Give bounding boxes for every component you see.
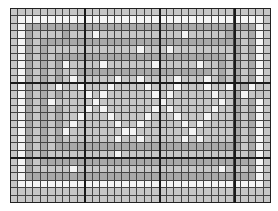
grid-cell <box>33 166 39 172</box>
grid-cell <box>70 99 76 105</box>
grid-cell <box>241 99 247 105</box>
grid-cell <box>85 39 91 45</box>
grid-cell <box>56 113 62 119</box>
grid-cell <box>174 91 180 97</box>
grid-cell <box>26 9 32 15</box>
grid-cell <box>48 143 54 149</box>
grid-cell <box>137 113 143 119</box>
grid-cell <box>85 61 91 67</box>
grid-cell <box>256 24 262 30</box>
grid-cell <box>33 188 39 194</box>
grid-cell <box>56 173 62 179</box>
grid-cell <box>204 196 210 202</box>
grid-cell <box>11 54 17 60</box>
grid-cell <box>33 46 39 52</box>
grid-cell <box>264 106 270 112</box>
grid-cell <box>85 84 91 90</box>
grid-cell <box>182 106 188 112</box>
grid-cell <box>56 188 62 194</box>
grid-cell <box>33 24 39 30</box>
grid-cell <box>174 39 180 45</box>
grid-cell <box>115 16 121 22</box>
grid-cell <box>226 121 232 127</box>
grid-cell <box>26 91 32 97</box>
grid-cell <box>122 166 128 172</box>
grid-cell <box>197 61 203 67</box>
grid-cell <box>26 39 32 45</box>
grid-cell <box>174 61 180 67</box>
grid-cell <box>249 31 255 37</box>
grid-cell <box>70 188 76 194</box>
grid-cell <box>70 46 76 52</box>
grid-cell <box>41 188 47 194</box>
grid-cell <box>145 16 151 22</box>
grid-cell <box>85 69 91 75</box>
grid-cell <box>11 61 17 67</box>
grid-cell <box>56 24 62 30</box>
grid-cell <box>189 91 195 97</box>
grid-cell <box>130 128 136 134</box>
grid-cell <box>115 54 121 60</box>
grid-cell <box>226 143 232 149</box>
grid-cell <box>122 113 128 119</box>
grid-cell <box>182 128 188 134</box>
grid-cell <box>152 69 158 75</box>
grid-cell <box>48 158 54 164</box>
grid-cell <box>108 24 114 30</box>
grid-cell <box>48 69 54 75</box>
grid-cell <box>189 9 195 15</box>
grid-cell <box>63 143 69 149</box>
grid-cell <box>189 188 195 194</box>
grid-cell <box>33 61 39 67</box>
grid-cell <box>130 136 136 142</box>
grid-cell <box>85 188 91 194</box>
grid-cell <box>167 69 173 75</box>
grid-cell <box>100 31 106 37</box>
grid-cell <box>122 196 128 202</box>
grid-cell <box>11 196 17 202</box>
grid-cell <box>115 113 121 119</box>
grid-cell <box>108 39 114 45</box>
grid-cell <box>93 31 99 37</box>
grid-cell <box>18 61 24 67</box>
grid-cell <box>241 113 247 119</box>
grid-cell <box>167 121 173 127</box>
grid-cell <box>212 166 218 172</box>
grid-cell <box>145 39 151 45</box>
grid-cell <box>122 136 128 142</box>
grid-cell <box>93 158 99 164</box>
grid-cell <box>48 99 54 105</box>
grid-cell <box>167 128 173 134</box>
grid-cell <box>241 143 247 149</box>
grid-cell <box>85 128 91 134</box>
grid-cell <box>152 188 158 194</box>
grid-cell <box>174 106 180 112</box>
grid-cell <box>249 46 255 52</box>
grid-cell <box>152 158 158 164</box>
grid-cell <box>108 173 114 179</box>
grid-cell <box>56 31 62 37</box>
grid-cell <box>115 188 121 194</box>
grid-cell <box>264 181 270 187</box>
grid-cell <box>152 173 158 179</box>
grid-cell <box>167 16 173 22</box>
grid-cell <box>122 158 128 164</box>
grid-cell <box>100 136 106 142</box>
grid-cell <box>48 9 54 15</box>
grid-cell <box>108 61 114 67</box>
grid-cell <box>115 128 121 134</box>
grid-cell <box>167 39 173 45</box>
grid-cell <box>56 143 62 149</box>
grid-cell <box>219 113 225 119</box>
grid-cell <box>130 16 136 22</box>
grid-cell <box>256 173 262 179</box>
grid-cell <box>63 69 69 75</box>
grid-cell <box>152 9 158 15</box>
grid-cell <box>41 46 47 52</box>
grid-cell <box>33 84 39 90</box>
grid-cell <box>145 91 151 97</box>
grid-cell <box>204 9 210 15</box>
grid-cell <box>174 99 180 105</box>
grid-cell <box>93 84 99 90</box>
grid-cell <box>189 128 195 134</box>
